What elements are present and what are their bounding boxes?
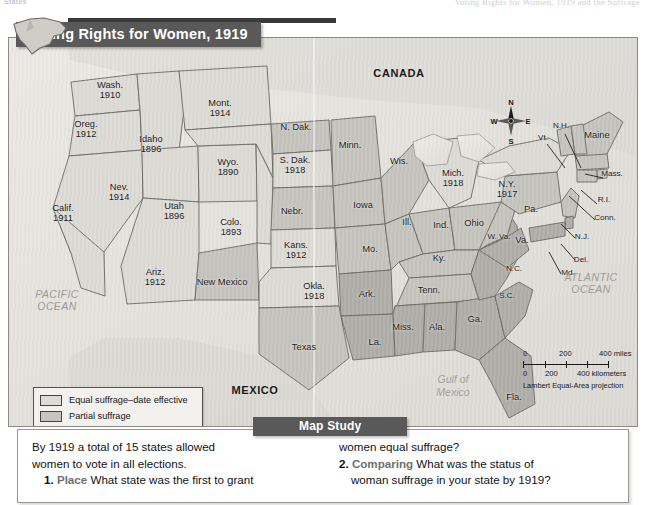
legend-swatch-0 [40, 395, 62, 406]
state-label-la: La. [369, 338, 382, 348]
state-name: W. Va. [487, 233, 510, 241]
state-name: Mass. [601, 170, 623, 178]
state-name: N.J. [575, 233, 589, 241]
state-suffrage-date: 1918 [303, 292, 325, 302]
state-suffrage-date: 1911 [52, 214, 73, 224]
state-label-s-dak: S. Dak.1918 [280, 156, 310, 175]
state-name: Ind. [433, 221, 449, 231]
state-name: Iowa [353, 201, 373, 211]
state-name: Ga. [468, 315, 483, 325]
state-name: Ohio [464, 219, 484, 229]
state-suffrage-date: 1918 [280, 166, 310, 176]
map-figure: N S E W Wash.1910Oreg.1912Idaho1896Mont.… [8, 37, 638, 427]
state-label-fla: Fla. [506, 393, 522, 403]
scale-miles-400: 400 miles [599, 349, 632, 358]
legend-label-0: Equal suffrage–date effective [69, 395, 188, 405]
state-label-vt: Vt. [538, 134, 548, 142]
state-label-n-h: N.H. [553, 122, 569, 130]
state-label-ky: Ky. [433, 254, 446, 264]
state-label-ind: Ind. [433, 221, 449, 231]
legend-row-1: Partial suffrage [40, 408, 196, 424]
state-label-iowa: Iowa [353, 201, 373, 211]
scale-miles-0: 0 [523, 349, 527, 358]
state-name: Conn. [594, 214, 616, 222]
state-name: Ark. [359, 290, 376, 300]
state-label-n-dak: N. Dak. [281, 123, 312, 133]
state-label-kans: Kans.1912 [284, 241, 308, 260]
state-name: Tenn. [418, 286, 441, 296]
state-suffrage-date: 1914 [208, 109, 231, 119]
state-name: Minn. [339, 141, 362, 151]
state-label-ariz: Ariz.1912 [145, 268, 166, 287]
water-label-line-1: ATLANTIC [564, 271, 617, 283]
state-label-nev: Nev.1914 [109, 183, 130, 202]
state-label-miss: Miss. [392, 323, 414, 333]
state-name: R.I. [598, 196, 611, 204]
map-study-intro-line-2: women to vote in all elections. [32, 456, 323, 473]
map-title-group: Voting Rights for Women, 1919 [16, 22, 261, 47]
state-label-s-c: S.C. [499, 292, 515, 300]
legend-label-1: Partial suffrage [69, 411, 131, 421]
map-scale-bar: 0 200 400 miles 0 200 400 kilometers Lam… [523, 349, 638, 390]
legend-swatch-1 [40, 411, 62, 422]
water-label-atlantic-ocean: ATLANTICOCEAN [564, 271, 617, 296]
country-label-canada: CANADA [373, 67, 424, 79]
scale-km-0: 0 [523, 369, 527, 378]
scale-km-200: 200 [545, 369, 558, 378]
state-name: N.H. [553, 122, 569, 130]
state-name: N. Dak. [281, 123, 312, 133]
state-suffrage-date: 1918 [442, 179, 464, 189]
map-study-question-2: 2. Comparing What was the status of [339, 456, 614, 473]
map-study-panel: By 1919 a total of 15 states allowed wom… [17, 429, 629, 503]
state-label-oreg: Oreg.1912 [74, 120, 97, 139]
question-1-keyword: Place [57, 473, 87, 486]
state-label-wash: Wash.1910 [97, 81, 123, 100]
page-fold-line [313, 38, 315, 426]
state-label-minn: Minn. [339, 141, 362, 151]
state-label-ark: Ark. [359, 290, 376, 300]
state-label-wis: Wis. [390, 157, 408, 167]
water-label-line-2: Mexico [436, 386, 469, 399]
state-label-maine: Maine [584, 131, 609, 141]
water-label-line-1: Gulf of [436, 373, 469, 386]
state-name: Mo. [362, 245, 378, 255]
state-suffrage-date: 1917 [497, 190, 518, 200]
state-label-ala: Ala. [429, 323, 445, 333]
state-name: N.C. [506, 265, 522, 273]
compass-rose: N S E W [490, 98, 532, 144]
state-label-n-j: N.J. [575, 233, 589, 241]
scale-miles-200: 200 [559, 349, 572, 358]
state-label-nebr: Nebr. [281, 207, 303, 217]
state-name: Texas [292, 343, 316, 353]
state-suffrage-date: 1912 [145, 278, 166, 288]
state-label-va: Va. [515, 236, 528, 246]
state-label-wyo: Wyo.1890 [217, 158, 238, 177]
state-label-calif: Calif.1911 [52, 204, 73, 223]
scale-miles-row: 0 200 400 miles [523, 349, 638, 360]
state-label-w-va: W. Va. [487, 233, 510, 241]
state-name: Vt. [538, 134, 548, 142]
compass-north-label: N [508, 98, 513, 107]
state-suffrage-date: 1910 [97, 91, 123, 101]
state-suffrage-date: 1890 [217, 168, 238, 178]
state-label-colo: Colo.1893 [220, 218, 242, 237]
question-2-keyword: Comparing [352, 457, 413, 470]
running-header-left: States [4, 0, 27, 5]
water-label-line-1: PACIFIC [35, 288, 78, 300]
state-suffrage-date: 1912 [74, 130, 97, 140]
state-name: Ill. [402, 218, 411, 228]
state-label-ill: Ill. [402, 218, 411, 228]
map-study-banner: Map Study [253, 417, 407, 436]
state-label-texas: Texas [292, 343, 316, 353]
legend-row-2: No statewide suffrage [40, 424, 196, 427]
state-name: Va. [515, 236, 528, 246]
state-label-utah: Utah1896 [164, 202, 185, 221]
state-name: S.C. [499, 292, 515, 300]
map-study-right-column: women equal suffrage? 2. Comparing What … [323, 439, 614, 489]
state-label-mass: Mass. [601, 170, 623, 178]
state-name: Nebr. [281, 207, 303, 217]
state-name: Miss. [392, 323, 414, 333]
state-suffrage-date: 1912 [284, 251, 308, 261]
state-name: Fla. [506, 393, 522, 403]
page-running-header: States Voting Rights for Women, 1919 and… [0, 0, 646, 12]
